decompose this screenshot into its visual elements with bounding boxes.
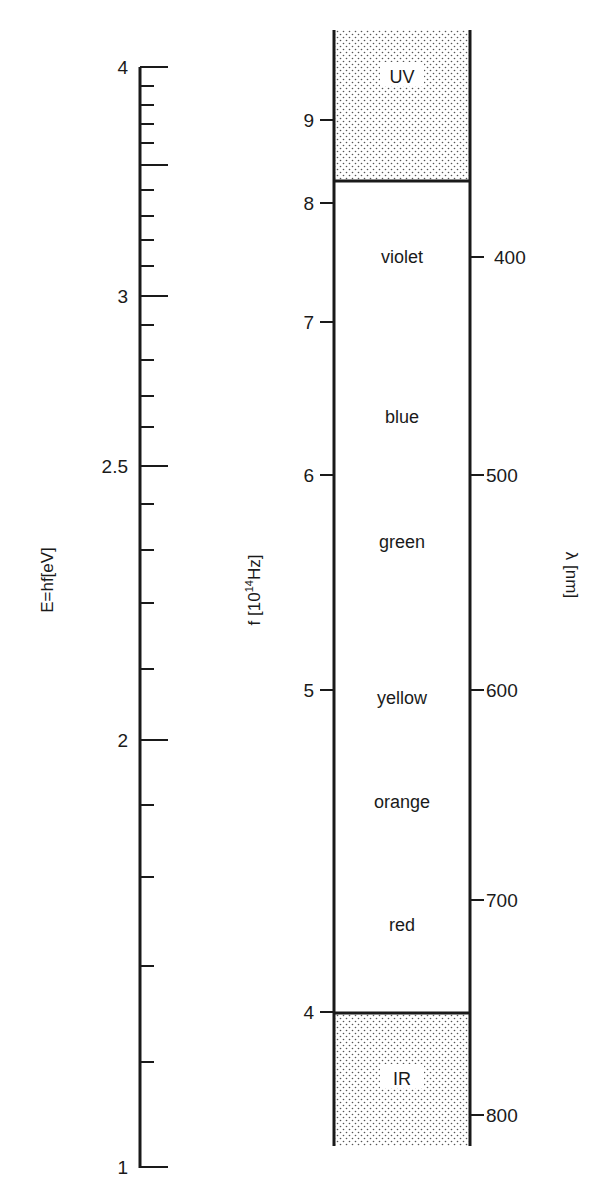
- band-label-blue: blue: [385, 407, 419, 427]
- energy-tick-label: 3: [117, 286, 128, 307]
- energy-tick-label: 1: [117, 1157, 128, 1178]
- band-label-green: green: [379, 532, 425, 552]
- frequency-tick-label: 8: [303, 193, 314, 214]
- frequency-axis-title-unit: Hz]: [245, 555, 264, 581]
- band-label-uv: UV: [389, 67, 414, 87]
- frequency-tick-label: 7: [303, 312, 314, 333]
- frequency-tick-label: 4: [303, 1002, 314, 1023]
- frequency-tick-label: 9: [303, 110, 314, 131]
- wavelength-tick-label: 500: [486, 465, 518, 486]
- energy-axis: 432.521: [102, 57, 168, 1178]
- spectrum-diagram: 432.521 E=hf[eV] f [1014Hz] UVvioletblue…: [0, 0, 604, 1203]
- frequency-axis-title-main: f [10: [245, 592, 264, 625]
- band-label-ir: IR: [393, 1069, 411, 1089]
- frequency-axis: 987654: [303, 110, 334, 1023]
- band-label-yellow: yellow: [377, 688, 428, 708]
- uv-region: [334, 30, 470, 181]
- energy-tick-label: 2.5: [102, 456, 128, 477]
- wavelength-axis-title: λ [nm]: [562, 552, 581, 598]
- frequency-tick-label: 6: [303, 465, 314, 486]
- energy-tick-label: 2: [117, 730, 128, 751]
- wavelength-tick-label: 600: [486, 680, 518, 701]
- band-label-red: red: [389, 915, 415, 935]
- wavelength-tick-label: 400: [494, 247, 526, 268]
- frequency-tick-label: 5: [303, 680, 314, 701]
- band-label-orange: orange: [374, 792, 430, 812]
- energy-tick-label: 4: [117, 57, 128, 78]
- spectrum-bar: UVvioletbluegreenyelloworangeredIR: [334, 30, 470, 1146]
- frequency-axis-title: f [1014Hz]: [243, 555, 264, 626]
- wavelength-tick-label: 800: [486, 1105, 518, 1126]
- wavelength-axis: 400500600700800: [470, 247, 526, 1126]
- energy-axis-title: E=hf[eV]: [38, 547, 57, 613]
- wavelength-tick-label: 700: [486, 890, 518, 911]
- band-label-violet: violet: [381, 247, 423, 267]
- frequency-axis-title-exponent: 14: [243, 580, 255, 592]
